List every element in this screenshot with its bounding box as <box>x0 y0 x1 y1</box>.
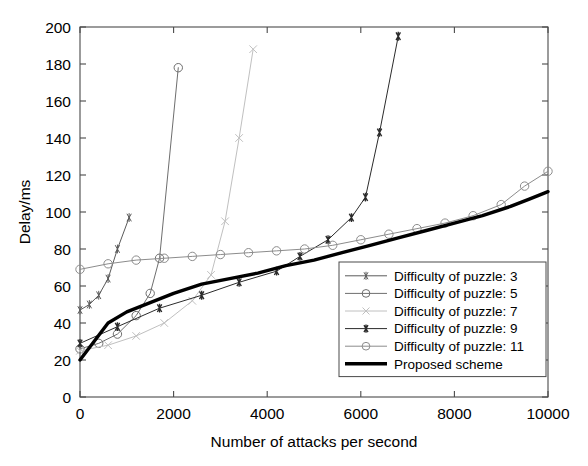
figure-container: 020406080100120140160180200 020004000600… <box>0 0 588 466</box>
y-tick-label: 20 <box>54 352 72 369</box>
legend-label: Proposed scheme <box>394 357 503 372</box>
x-axis-title: Number of attacks per second <box>211 433 418 450</box>
legend-label: Difficulty of puzzle: 9 <box>394 321 518 336</box>
delay-vs-attacks-line-chart: 020406080100120140160180200 020004000600… <box>0 0 588 466</box>
legend-label: Difficulty of puzzle: 7 <box>394 304 518 319</box>
legend-label: Difficulty of puzzle: 5 <box>394 286 518 301</box>
y-tick-label: 160 <box>45 93 71 110</box>
y-tick-label: 180 <box>45 56 71 73</box>
chart-background <box>0 0 588 466</box>
x-tick-label: 4000 <box>250 405 285 422</box>
x-tick-label: 0 <box>76 405 85 422</box>
y-tick-label: 100 <box>45 204 71 221</box>
y-tick-label: 80 <box>54 241 72 258</box>
y-axis-title: Delay/ms <box>16 179 33 244</box>
chart-legend: Difficulty of puzzle: 3Difficulty of puz… <box>339 262 546 377</box>
y-tick-label: 0 <box>62 389 71 406</box>
legend-label: Difficulty of puzzle: 11 <box>394 339 524 354</box>
y-tick-label: 200 <box>45 19 71 36</box>
y-tick-label: 120 <box>45 167 71 184</box>
legend-label: Difficulty of puzzle: 3 <box>394 269 518 284</box>
y-tick-label: 40 <box>54 315 72 332</box>
y-tick-label: 60 <box>54 278 72 295</box>
x-tick-label: 6000 <box>344 405 379 422</box>
y-tick-label: 140 <box>45 130 71 147</box>
x-tick-label: 10000 <box>526 405 569 422</box>
x-tick-label: 8000 <box>437 405 472 422</box>
x-tick-label: 2000 <box>156 405 191 422</box>
